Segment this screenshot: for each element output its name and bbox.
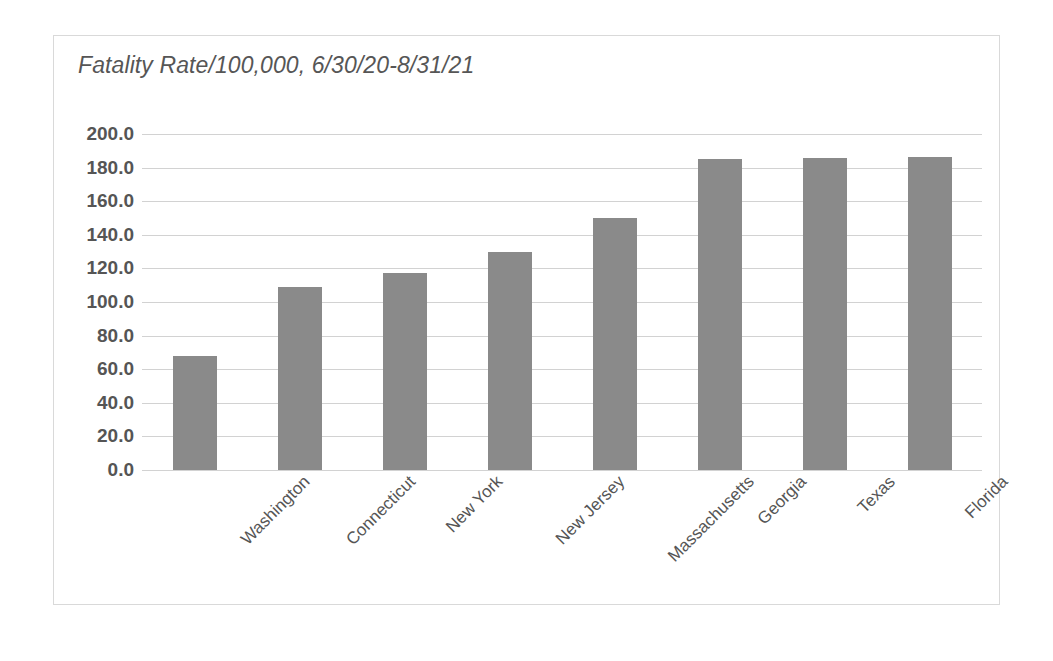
x-axis-tick-label: Massachusetts	[664, 472, 758, 566]
x-axis-tick-label: New York	[442, 472, 507, 537]
y-axis-tick-label: 0.0	[60, 459, 134, 481]
chart-frame: Fatality Rate/100,000, 6/30/20-8/31/21 2…	[53, 35, 1000, 605]
x-axis-tick-label: New Jersey	[552, 472, 629, 549]
x-axis-tick-label: Connecticut	[342, 472, 420, 550]
y-axis-tick-label: 100.0	[60, 291, 134, 313]
bar	[908, 157, 952, 470]
x-axis-tick-label: Washington	[237, 472, 314, 549]
y-axis-tick-label: 20.0	[60, 425, 134, 447]
y-axis-tick-label: 60.0	[60, 358, 134, 380]
y-axis-tick-label: 140.0	[60, 224, 134, 246]
y-axis: 200.0180.0160.0140.0120.0100.080.060.040…	[54, 134, 134, 470]
chart-figure: Fatality Rate/100,000, 6/30/20-8/31/21 2…	[0, 0, 1053, 661]
bar	[593, 218, 637, 470]
bar	[173, 356, 217, 470]
bar	[698, 159, 742, 470]
bar	[383, 273, 427, 470]
gridline	[142, 470, 982, 471]
bar	[803, 158, 847, 470]
x-axis-tick: New York	[442, 472, 507, 537]
y-axis-tick-label: 200.0	[60, 123, 134, 145]
x-axis-tick-label: Georgia	[753, 472, 810, 529]
x-axis-tick: Texas	[854, 472, 900, 518]
x-axis: WashingtonConnecticutNew YorkNew JerseyM…	[142, 472, 982, 592]
x-axis-tick-label: Florida	[961, 472, 1012, 523]
bar-series	[142, 134, 982, 470]
y-axis-tick-label: 40.0	[60, 392, 134, 414]
y-axis-tick-label: 180.0	[60, 157, 134, 179]
x-axis-tick-label: Texas	[854, 472, 900, 518]
x-axis-tick: Georgia	[753, 472, 810, 529]
x-axis-tick: Connecticut	[342, 472, 420, 550]
x-axis-tick: Massachusetts	[664, 472, 758, 566]
x-axis-tick: Florida	[961, 472, 1012, 523]
y-axis-tick-label: 160.0	[60, 190, 134, 212]
bar	[278, 287, 322, 470]
y-axis-tick-label: 80.0	[60, 325, 134, 347]
chart-title: Fatality Rate/100,000, 6/30/20-8/31/21	[78, 52, 474, 79]
x-axis-tick: New Jersey	[552, 472, 629, 549]
bar	[488, 252, 532, 470]
y-axis-tick-label: 120.0	[60, 257, 134, 279]
x-axis-tick: Washington	[237, 472, 314, 549]
